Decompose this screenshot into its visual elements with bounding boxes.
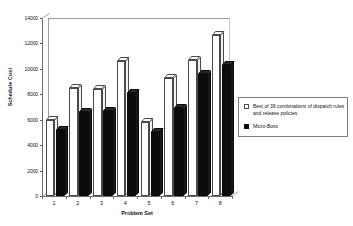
- bar-micro-boss-set-8: [222, 65, 231, 196]
- bar-micro-boss-set-3: [103, 111, 112, 196]
- bar-face: [93, 89, 102, 196]
- bar-best-of-39-set-7: [188, 60, 197, 196]
- chart-legend: Best of 39 combinations of dispatch rule…: [238, 97, 348, 137]
- bar-face: [69, 88, 78, 196]
- bar-side: [183, 104, 187, 196]
- y-tick-label: 4000: [8, 142, 38, 148]
- bar-side: [88, 108, 92, 196]
- y-tick-label: 0: [8, 193, 38, 199]
- x-tick-label: 2: [69, 200, 87, 206]
- bar-micro-boss-set-6: [174, 108, 183, 196]
- x-tick-label: 1: [45, 200, 63, 206]
- x-tick-label: 4: [116, 200, 134, 206]
- y-tick-label: 10000: [8, 66, 38, 72]
- bar-best-of-39-set-5: [141, 122, 150, 196]
- bar-face: [151, 132, 160, 196]
- bar-best-of-39-set-2: [69, 88, 78, 196]
- bar-best-of-39-set-8: [212, 35, 221, 196]
- y-tick-label: 8000: [8, 91, 38, 97]
- bar-best-of-39-set-6: [164, 78, 173, 196]
- y-axis-title: Schedule Cost: [7, 51, 13, 123]
- legend-item-micro-boss: Micro-Boss: [244, 123, 347, 130]
- legend-swatch-black: [244, 124, 249, 129]
- x-tick-mark: [161, 196, 162, 199]
- x-tick-mark: [185, 196, 186, 199]
- x-tick-mark: [113, 196, 114, 199]
- x-tick-mark: [208, 196, 209, 199]
- bar-best-of-39-set-3: [93, 89, 102, 196]
- legend-item-best-of-39: Best of 39 combinations of dispatch rule…: [244, 103, 347, 117]
- x-tick-mark: [90, 196, 91, 199]
- bar-face: [103, 111, 112, 196]
- legend-label-best-of-39: Best of 39 combinations of dispatch rule…: [253, 103, 347, 117]
- x-tick-label: 6: [164, 200, 182, 206]
- bar-micro-boss-set-4: [127, 93, 136, 196]
- bar-side: [159, 129, 163, 196]
- y-tick-label: 6000: [8, 117, 38, 123]
- bar-side: [112, 107, 116, 196]
- y-tick-label: 2000: [8, 168, 38, 174]
- bar-micro-boss-set-2: [79, 112, 88, 196]
- x-axis-title: Problem Set: [42, 210, 232, 216]
- bar-face: [174, 108, 183, 196]
- bar-side: [207, 70, 211, 196]
- bar-micro-boss-set-1: [56, 130, 65, 196]
- y-tick-label: 12000: [8, 40, 38, 46]
- x-tick-label: 3: [92, 200, 110, 206]
- y-tick-label: 14000: [8, 15, 38, 21]
- bar-best-of-39-set-1: [46, 120, 55, 196]
- x-tick-label: 5: [140, 200, 158, 206]
- x-tick-label: 8: [211, 200, 229, 206]
- bar-micro-boss-set-5: [151, 132, 160, 196]
- bar-face: [164, 78, 173, 196]
- chart-figure: Schedule Cost 02000400060008000100001200…: [0, 0, 353, 226]
- bar-side: [230, 61, 234, 196]
- x-tick-mark: [232, 196, 233, 199]
- x-tick-mark: [137, 196, 138, 199]
- bar-face: [46, 120, 55, 196]
- plot-area: [42, 18, 232, 196]
- bar-face: [79, 112, 88, 196]
- x-tick-mark: [66, 196, 67, 199]
- x-tick-label: 7: [187, 200, 205, 206]
- bar-best-of-39-set-4: [117, 61, 126, 196]
- legend-swatch-white: [244, 104, 249, 109]
- bar-face: [198, 74, 207, 196]
- bar-face: [56, 130, 65, 196]
- bar-face: [141, 122, 150, 196]
- bar-side: [64, 126, 68, 196]
- bar-side: [135, 89, 139, 196]
- bar-micro-boss-set-7: [198, 74, 207, 196]
- x-tick-mark: [42, 196, 43, 199]
- legend-label-micro-boss: Micro-Boss: [253, 123, 347, 130]
- bar-face: [188, 60, 197, 196]
